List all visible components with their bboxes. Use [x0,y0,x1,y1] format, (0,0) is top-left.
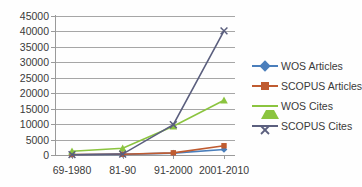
series-wos-cites [68,97,228,155]
legend-swatch-square-icon [252,80,278,92]
legend-swatch-x-icon [252,120,278,132]
legend-label: WOS Articles [281,60,343,72]
data-point-marker [220,97,228,104]
legend-item[interactable]: WOS Cites [252,96,360,116]
legend-swatch-diamond-icon [252,60,278,72]
series-scopus-cites [69,27,228,158]
data-point-marker [221,27,228,34]
legend-item[interactable]: WOS Articles [252,56,360,76]
chart-legend: WOS ArticlesSCOPUS ArticlesWOS CitesSCOP… [252,56,360,136]
series-line [72,100,224,151]
legend-label: SCOPUS Cites [281,120,352,132]
data-point-marker [171,150,176,155]
series-line [72,31,224,155]
legend-swatch-triangle-icon [252,100,278,112]
legend-item[interactable]: SCOPUS Cites [252,116,360,136]
legend-label: SCOPUS Articles [281,80,362,92]
legend-item[interactable]: SCOPUS Articles [252,76,360,96]
legend-label: WOS Cites [281,100,333,112]
data-point-marker [221,143,226,148]
